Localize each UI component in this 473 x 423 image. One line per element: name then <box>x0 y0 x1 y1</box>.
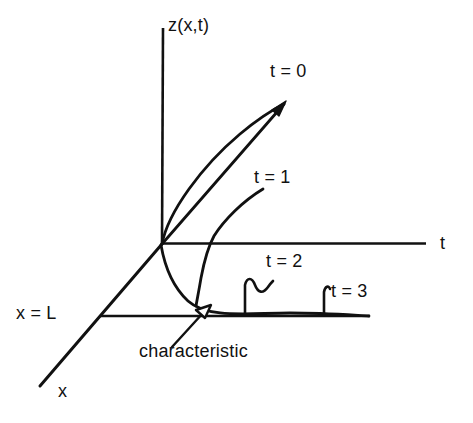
t1-profile-label: t = 1 <box>254 168 291 186</box>
t-axis-label: t <box>440 234 445 252</box>
z-axis-label: z(x,t) <box>168 16 209 34</box>
z-axis-line <box>162 28 163 244</box>
t2-profile-wavelet <box>245 279 273 314</box>
t0-profile-label: t = 0 <box>270 62 307 80</box>
boundary-label: x = L <box>16 304 57 322</box>
diagram-canvas: z(x,t) t = 0 t = 1 t = 2 t = 3 t x = L x… <box>0 0 473 423</box>
t3-profile-spike <box>324 287 330 315</box>
characteristic-label: characteristic <box>139 342 248 360</box>
t3-profile-label: t = 3 <box>331 282 368 300</box>
t2-profile-label: t = 2 <box>266 252 303 270</box>
x-axis-label: x <box>58 382 67 400</box>
t1-profile-curve <box>196 189 263 306</box>
